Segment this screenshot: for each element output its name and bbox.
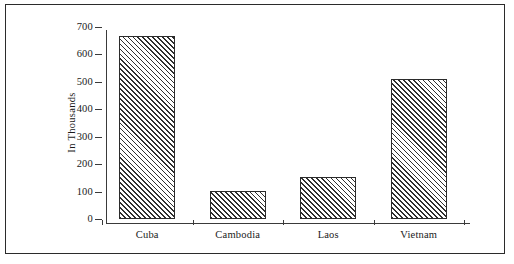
bar [210,191,266,219]
y-axis-tick [95,109,102,110]
x-axis-tick [102,220,103,225]
plot-area [102,27,464,219]
x-axis-category-label: Vietnam [374,229,465,241]
x-axis-tick [464,220,465,225]
x-axis-tick [283,220,284,225]
bar [391,79,447,219]
y-axis-tick-label: 0 [53,214,93,225]
x-axis-line [106,223,470,224]
x-axis-tick [374,220,375,225]
bar [300,177,356,219]
x-axis-category-label: Laos [283,229,374,241]
y-axis-tick [95,54,102,55]
y-axis-tick [95,164,102,165]
y-axis-tick [95,82,102,83]
y-axis-tick-label: 700 [53,22,93,33]
bar [119,36,175,219]
y-axis-tick [95,27,102,28]
y-axis-tick [95,137,102,138]
y-axis-tick [95,192,102,193]
y-axis-tick [95,219,102,220]
x-axis-category-label: Cuba [102,229,193,241]
x-axis-category-label: Cambodia [193,229,284,241]
y-axis-title: In Thousands [66,58,77,188]
x-axis-tick [193,220,194,225]
figure-frame: 0100200300400500600700 In Thousands Cuba… [5,4,505,254]
y-axis-tick-label: 100 [53,187,93,198]
